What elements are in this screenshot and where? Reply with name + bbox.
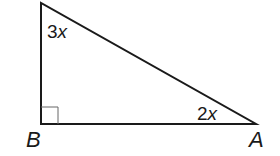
right-angle-marker [41, 107, 58, 124]
triangle-diagram: 3x 2x B A [0, 0, 280, 156]
angle-label-top: 3x [47, 21, 69, 42]
triangle-shape [41, 3, 256, 124]
vertex-label-b: B [26, 127, 41, 152]
vertex-label-a: A [247, 127, 264, 152]
angle-label-a: 2x [197, 103, 219, 124]
